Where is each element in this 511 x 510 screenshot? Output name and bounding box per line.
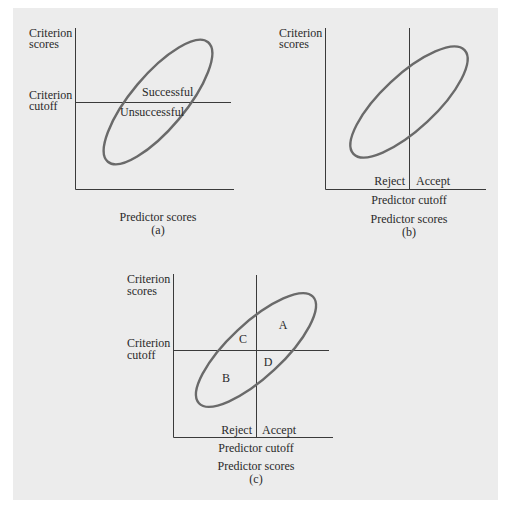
panel-caption: (c) — [249, 472, 262, 486]
region-unsuccessful-label: Unsuccessful — [120, 105, 185, 119]
predictor-cutoff-label: Predictor cutoff — [371, 193, 446, 207]
y-axis-label-line2: scores — [127, 284, 157, 298]
x-axis-label: Predictor scores — [120, 210, 197, 224]
panel-c: Criterion scores Criterion cutoff A C D … — [127, 272, 333, 486]
x-axis-label: Predictor scores — [371, 212, 448, 226]
panel-b: Criterion scores Reject Accept Predictor… — [279, 26, 486, 239]
region-successful-label: Successful — [142, 85, 194, 99]
predictor-cutoff-label: Predictor cutoff — [218, 441, 293, 455]
panel-caption: (b) — [402, 225, 416, 239]
panel-caption: (a) — [151, 223, 164, 237]
panel-a: Criterion scores Criterion cutoff Succes… — [29, 25, 234, 237]
selection-cutoff-diagrams: Criterion scores Criterion cutoff Succes… — [0, 0, 511, 510]
reject-label: Reject — [221, 423, 252, 437]
criterion-cutoff-label-line2: cutoff — [127, 348, 155, 362]
quadrant-a-label: A — [279, 318, 288, 332]
y-axis-label-line2: scores — [29, 37, 59, 51]
x-axis-label: Predictor scores — [218, 459, 295, 473]
reject-label: Reject — [374, 174, 405, 188]
accept-label: Accept — [416, 174, 451, 188]
y-axis-label-line2: scores — [279, 37, 309, 51]
quadrant-c-label: C — [239, 332, 247, 346]
criterion-cutoff-label-line2: cutoff — [29, 99, 57, 113]
quadrant-d-label: D — [264, 355, 273, 369]
accept-label: Accept — [262, 423, 297, 437]
quadrant-b-label: B — [222, 371, 230, 385]
